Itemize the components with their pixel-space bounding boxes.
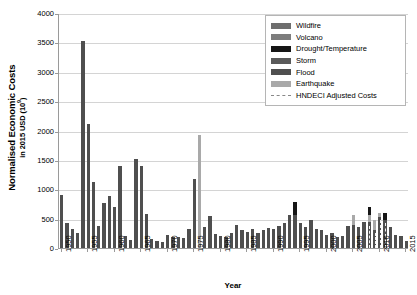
- x-axis-tick-mark: [193, 249, 194, 252]
- bar-1994: [293, 202, 296, 248]
- bar-1970: [166, 235, 169, 249]
- legend-label: Volcano: [296, 33, 323, 42]
- bar-segment: [182, 238, 185, 248]
- x-axis-tick-label: 1985: [249, 235, 258, 252]
- x-axis-tick-mark: [299, 249, 300, 252]
- bar-segment: [166, 235, 169, 249]
- legend-item-earthquake: Earthquake: [271, 78, 400, 90]
- bar-1984: [240, 230, 243, 248]
- legend-label: HNDECI Adjusted Costs: [296, 91, 377, 100]
- bar-1989: [267, 228, 270, 248]
- legend-item-flood: Flood: [271, 66, 400, 78]
- y-axis-tick-label: 500: [12, 215, 54, 224]
- bar-2014: [399, 236, 402, 248]
- bar-2013: [394, 235, 397, 248]
- x-axis-tick-label: 1995: [302, 235, 311, 252]
- bar-segment: [293, 202, 296, 216]
- bar-segment: [102, 203, 105, 248]
- x-axis-tick-mark: [140, 249, 141, 252]
- x-axis-tick-label: 2005: [355, 235, 364, 252]
- x-axis-tick-mark: [61, 249, 62, 252]
- x-axis-tick-mark: [326, 249, 327, 252]
- bar-2003: [341, 236, 344, 248]
- bar-segment: [399, 236, 402, 248]
- hndeci-marker-2008: [369, 226, 370, 248]
- x-axis-tick-label: 1955: [90, 235, 99, 252]
- bar-1998: [315, 229, 318, 248]
- bar-segment: [341, 236, 344, 248]
- bar-1959: [108, 196, 111, 248]
- bar-1960: [113, 207, 116, 248]
- x-axis-tick-label: 1950: [64, 235, 73, 252]
- hndeci-marker-2009: [375, 233, 376, 248]
- gridline: [59, 190, 408, 191]
- y-axis-tick-label: 0: [12, 244, 54, 253]
- bar-1963: [129, 240, 132, 248]
- bar-1976: [198, 135, 201, 248]
- x-axis-tick-mark: [246, 249, 247, 252]
- x-axis-tick-label: 1960: [117, 235, 126, 252]
- bar-segment: [208, 216, 211, 248]
- bar-1974: [187, 229, 190, 248]
- legend-item-wildfire: Wildfire: [271, 20, 400, 32]
- bar-1968: [155, 241, 158, 248]
- bar-segment: [267, 228, 270, 248]
- gridline: [59, 220, 408, 221]
- gridline: [59, 161, 408, 162]
- bar-segment: [368, 207, 371, 215]
- bar-segment: [315, 229, 318, 248]
- legend-label: Drought/Temperature: [296, 44, 367, 53]
- hndeci-marker-2010: [380, 220, 381, 248]
- legend-swatch: [271, 34, 291, 40]
- bar-segment: [288, 215, 291, 248]
- bar-segment: [161, 242, 164, 248]
- y-axis-tick-mark: [55, 249, 58, 250]
- y-axis-tick-label: 2500: [12, 97, 54, 106]
- bar-segment: [320, 230, 323, 248]
- bar-1958: [102, 203, 105, 248]
- x-axis-title: Year: [58, 281, 408, 290]
- bar-1990: [272, 229, 275, 248]
- bar-segment: [325, 235, 328, 249]
- x-axis-tick-label: 1990: [276, 235, 285, 252]
- legend-swatch: [271, 81, 291, 87]
- bar-segment: [134, 159, 137, 248]
- legend-item-volcano: Volcano: [271, 32, 400, 44]
- bar-1954: [81, 41, 84, 248]
- x-axis-tick-label: 1970: [170, 235, 179, 252]
- x-axis-tick-label: 2015: [408, 235, 417, 252]
- x-axis-tick-mark: [87, 249, 88, 252]
- bar-segment: [383, 213, 386, 220]
- bar-segment: [235, 225, 238, 249]
- bar-segment: [198, 135, 201, 248]
- bar-segment: [272, 229, 275, 248]
- bar-segment: [240, 230, 243, 248]
- x-axis-tick-mark: [273, 249, 274, 252]
- bar-segment: [373, 220, 376, 231]
- x-axis-tick-label: 1980: [223, 235, 232, 252]
- x-axis-tick-mark: [167, 249, 168, 252]
- gridline: [59, 132, 408, 133]
- y-axis-tick-label: 2000: [12, 127, 54, 136]
- legend-swatch: [271, 46, 291, 52]
- bar-1978: [208, 216, 211, 248]
- bar-1950: [60, 195, 63, 248]
- legend-swatch: [271, 23, 291, 29]
- y-axis-tick-label: 3000: [12, 68, 54, 77]
- legend-label: Storm: [296, 56, 316, 65]
- bar-1973: [182, 238, 185, 248]
- bar-segment: [394, 235, 397, 248]
- bar-segment: [187, 229, 190, 248]
- legend-label: Earthquake: [296, 79, 334, 88]
- bar-1988: [262, 230, 265, 248]
- x-axis-tick-label: 2010: [382, 235, 391, 252]
- bar-1999: [320, 230, 323, 248]
- bar-segment: [76, 233, 79, 248]
- x-axis-tick-mark: [405, 249, 406, 252]
- bar-1964: [134, 159, 137, 248]
- y-axis-tick-label: 1000: [12, 185, 54, 194]
- bar-segment: [293, 215, 296, 248]
- y-axis-tick-label: 4000: [12, 9, 54, 18]
- bar-segment: [81, 41, 84, 248]
